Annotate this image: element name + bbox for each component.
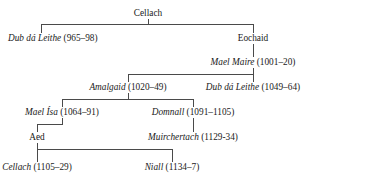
tree-node-amalgaid: Amalgaid (1020–49) bbox=[89, 82, 166, 93]
node-dates: (1105–29) bbox=[33, 162, 71, 172]
edge-cellach-drop-right bbox=[253, 24, 254, 33]
node-name: Dub dá Leithe bbox=[8, 33, 61, 43]
node-name: Aed bbox=[29, 132, 45, 142]
tree-node-cellach-root: Cellach bbox=[134, 8, 162, 19]
node-dates: (1020–49) bbox=[128, 82, 167, 92]
edge-eochaid-to-maelmaire bbox=[253, 44, 254, 57]
edge-cellach-drop-left bbox=[41, 24, 42, 33]
edge-maelisa-drop bbox=[37, 124, 38, 132]
node-name: Domnall bbox=[152, 107, 185, 117]
edge-aed-drop-left bbox=[37, 149, 38, 162]
tree-node-dub-da-leithe-2: Dub dá Leithe (1049–64) bbox=[206, 82, 300, 93]
node-name: Amalgaid bbox=[89, 82, 125, 92]
tree-node-eochaid: Eochaid bbox=[238, 33, 268, 44]
edge-amalgaid-bar bbox=[62, 99, 194, 100]
node-name: Mael Ísa bbox=[25, 107, 58, 117]
node-name: Muirchertach bbox=[148, 132, 199, 142]
tree-node-domnall: Domnall (1091–1105) bbox=[152, 107, 235, 118]
edge-aed-bar bbox=[37, 149, 173, 150]
node-dates: (1129-34) bbox=[201, 132, 238, 142]
edge-cellach-bar bbox=[41, 24, 254, 25]
node-name: Niall bbox=[145, 162, 164, 172]
edge-maelmaire-drop-left bbox=[128, 74, 129, 82]
node-dates: (1134–7) bbox=[166, 162, 200, 172]
node-dates: (965–98) bbox=[64, 33, 98, 43]
edge-amalgaid-drop-right bbox=[193, 99, 194, 107]
tree-node-dub-da-leithe-1: Dub dá Leithe (965–98) bbox=[8, 33, 98, 44]
tree-node-mael-isa: Mael Ísa (1064–91) bbox=[25, 107, 99, 118]
tree-node-muirchertach: Muirchertach (1129-34) bbox=[148, 132, 238, 143]
edge-domnall-to-muirchertach bbox=[193, 118, 194, 132]
edge-aed-drop-right bbox=[172, 149, 173, 162]
node-name: Dub dá Leithe bbox=[206, 82, 259, 92]
node-dates: (1049–64) bbox=[261, 82, 300, 92]
tree-node-aed: Aed bbox=[29, 132, 45, 143]
node-dates: (1001–20) bbox=[257, 57, 296, 67]
node-dates: (1091–1105) bbox=[187, 107, 235, 117]
edge-maelisa-bar bbox=[37, 124, 63, 125]
genealogy-tree: CellachDub dá Leithe (965–98)EochaidMael… bbox=[0, 0, 379, 191]
tree-node-mael-maire: Mael Maire (1001–20) bbox=[211, 57, 296, 68]
edge-amalgaid-drop-left bbox=[62, 99, 63, 107]
tree-node-cellach-2: Cellach (1105–29) bbox=[2, 162, 72, 173]
node-name: Cellach bbox=[2, 162, 31, 172]
node-name: Mael Maire bbox=[211, 57, 255, 67]
edge-maelmaire-bar bbox=[128, 74, 254, 75]
node-name: Cellach bbox=[134, 8, 162, 18]
tree-node-niall: Niall (1134–7) bbox=[145, 162, 200, 173]
node-dates: (1064–91) bbox=[60, 107, 99, 117]
edge-maelmaire-drop-right bbox=[253, 74, 254, 82]
node-name: Eochaid bbox=[238, 33, 268, 43]
